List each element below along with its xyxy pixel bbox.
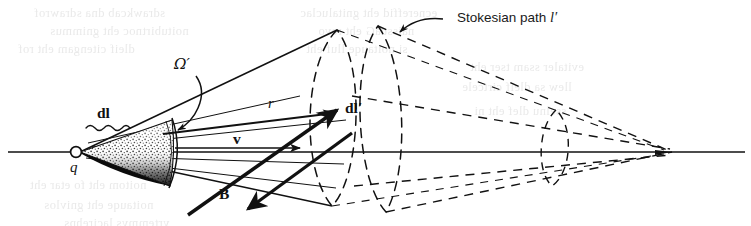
- figure-drawing: [0, 0, 751, 226]
- r-label: r: [268, 96, 274, 111]
- cone-rays: [80, 30, 346, 206]
- B-label: B: [219, 186, 229, 202]
- stokes-ellipse-near: [310, 30, 356, 206]
- stokesian-path-figure: sdrawkcab dna sdrawrofecnereffid eht gni…: [0, 0, 751, 226]
- dl-label: dl: [97, 105, 110, 121]
- solid-angle-label: Ω′: [174, 57, 190, 72]
- stokesian-path-text: Stokesian path: [457, 10, 550, 25]
- dl-prime-label: dl′: [345, 100, 362, 116]
- v-label: v: [233, 131, 241, 147]
- B-vector: [248, 133, 352, 209]
- dashed-convergent-rays: [332, 26, 672, 212]
- stokesian-path-symbol: l′: [550, 9, 557, 25]
- stokesian-path-label: Stokesian path l′: [457, 10, 557, 25]
- stokes-ellipse-far: [360, 26, 402, 212]
- charge-circle: [71, 147, 82, 158]
- charge-label: q: [70, 160, 78, 175]
- stokesian-leader-arrow: [400, 19, 443, 32]
- dl-brace: [86, 126, 130, 131]
